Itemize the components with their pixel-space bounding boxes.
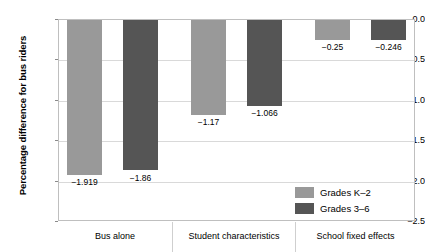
bar-school-fixed-effects-grades-k-2[interactable] <box>315 20 350 40</box>
gridline-minus-1-0 <box>59 101 414 102</box>
bar-value-label-student-characteristics-grades-3-6: −1.066 <box>237 108 292 118</box>
chart-figure: Percentage difference for bus riders 0.0… <box>0 0 425 252</box>
gridline-minus-0-5 <box>59 60 414 61</box>
bar-bus-alone-grades-3-6[interactable] <box>123 20 158 170</box>
legend-label-grades-3-6: Grades 3–6 <box>320 203 370 214</box>
bar-student-characteristics-grades-3-6[interactable] <box>247 20 282 106</box>
y-axis-title: Percentage difference for bus riders <box>17 11 28 221</box>
legend: Grades K–2 Grades 3–6 <box>295 186 371 215</box>
bar-value-label-school-fixed-effects-grades-k-2: −0.25 <box>305 42 360 52</box>
legend-item-grades-k-2[interactable]: Grades K–2 <box>295 186 371 199</box>
legend-label-grades-k-2: Grades K–2 <box>320 187 371 198</box>
x-axis-label-bus-alone: Bus alone <box>58 231 172 241</box>
x-axis-label-student-characteristics: Student characteristics <box>173 231 295 241</box>
gridline-minus-1-5 <box>59 141 414 142</box>
legend-item-grades-3-6[interactable]: Grades 3–6 <box>295 202 371 215</box>
bar-bus-alone-grades-k-2[interactable] <box>67 20 102 175</box>
bar-student-characteristics-grades-k-2[interactable] <box>191 20 226 115</box>
x-axis-label-school-fixed-effects: School fixed effects <box>296 231 415 241</box>
bar-value-label-bus-alone-grades-k-2: −1.919 <box>57 177 112 187</box>
bar-value-label-bus-alone-grades-3-6: −1.86 <box>113 173 168 183</box>
bar-value-label-student-characteristics-grades-k-2: −1.17 <box>181 117 236 127</box>
legend-swatch-grades-3-6 <box>295 203 314 214</box>
bar-school-fixed-effects-grades-3-6[interactable] <box>371 20 406 40</box>
legend-swatch-grades-k-2 <box>295 187 314 198</box>
bar-value-label-school-fixed-effects-grades-3-6: −0.246 <box>361 42 416 52</box>
y-tick-mark-5 <box>55 221 58 222</box>
